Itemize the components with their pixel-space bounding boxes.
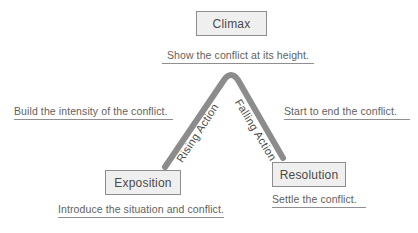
stage-box-exposition[interactable]: Exposition xyxy=(105,170,181,195)
stage-box-resolution[interactable]: Resolution xyxy=(272,162,346,187)
caption-rising-action: Build the intensity of the conflict. xyxy=(14,105,173,120)
plot-diagram: Climax Show the conflict at its height. … xyxy=(0,0,418,233)
caption-exposition: Introduce the situation and conflict. xyxy=(58,203,224,218)
caption-falling-action: Start to end the conflict. xyxy=(284,105,410,120)
stage-box-exposition-label: Exposition xyxy=(114,176,171,190)
caption-climax: Show the conflict at its height. xyxy=(162,49,314,64)
stage-box-resolution-label: Resolution xyxy=(280,168,339,182)
slope-label-rising-action: Rising Action xyxy=(174,101,221,164)
stage-box-climax-label: Climax xyxy=(213,17,251,31)
caption-resolution: Settle the conflict. xyxy=(272,193,366,208)
slope-label-falling-action: Falling Action xyxy=(233,97,279,163)
stage-box-climax[interactable]: Climax xyxy=(196,11,267,36)
